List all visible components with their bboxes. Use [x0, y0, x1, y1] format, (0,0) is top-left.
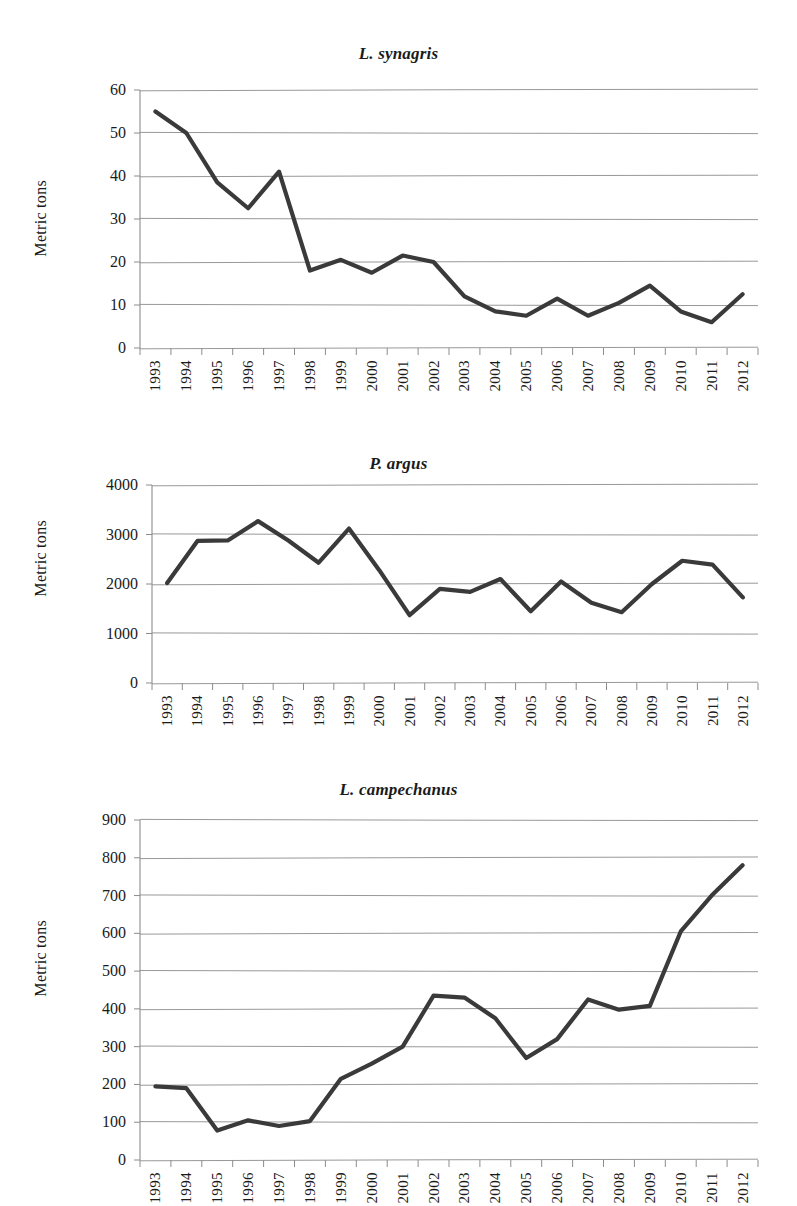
y-tick-label: 4000: [50, 477, 138, 493]
x-tick-label: 2006: [549, 360, 566, 392]
gridline: [140, 261, 758, 263]
x-tick-label: 2009: [642, 360, 659, 392]
x-tick-label: 2011: [705, 695, 722, 726]
x-tick-label: 2001: [395, 360, 412, 392]
gridline: [140, 1122, 758, 1123]
y-tick-label: 800: [30, 850, 126, 866]
x-tick-label: 2008: [614, 695, 631, 727]
y-tick-label: 1000: [50, 626, 138, 642]
x-tick-label: 2000: [371, 695, 388, 727]
gridline: [152, 484, 758, 486]
x-tick-label: 1993: [159, 695, 176, 727]
x-tick-label: 2000: [364, 1172, 381, 1204]
x-tick-label: 1999: [341, 695, 358, 727]
gridline: [140, 933, 758, 935]
figure-page: L. synagris Metric tons 0102030405060199…: [0, 0, 797, 1206]
y-tick-label: 200: [30, 1076, 126, 1092]
x-tick-label: 2002: [432, 695, 449, 727]
x-tick-label: 2005: [518, 1172, 535, 1204]
x-tick-label: 2009: [644, 695, 661, 727]
x-tick-label: 2008: [611, 360, 628, 392]
y-tick-label: 2000: [50, 576, 138, 592]
y-tick-label: 0: [50, 675, 138, 691]
data-series-line: [155, 865, 742, 1130]
x-tick-label: 2003: [456, 360, 473, 392]
x-tick-label: 1994: [189, 695, 206, 727]
y-tick-label: 600: [30, 925, 126, 941]
x-tick-label: 2007: [580, 360, 597, 392]
x-tick-label: 2003: [456, 1172, 473, 1204]
gridline: [140, 895, 758, 896]
x-tick-label: 1993: [147, 360, 164, 392]
gridline: [140, 89, 758, 91]
gridline: [152, 633, 758, 634]
x-tick-label: 1999: [333, 1172, 350, 1204]
y-tick-label: 40: [30, 168, 126, 184]
y-tick-label: 20: [30, 254, 126, 270]
x-tick-label: 2002: [426, 360, 443, 392]
gridline: [140, 175, 758, 177]
x-tick-label: 1998: [302, 1172, 319, 1204]
x-tick-label: 2004: [487, 360, 504, 392]
x-tick-label: 2011: [704, 1172, 721, 1203]
gridline: [140, 1008, 758, 1010]
chart-svg: [140, 820, 758, 1160]
x-tick-label: 1998: [311, 695, 328, 727]
gridline: [140, 132, 758, 133]
plot-area: [140, 90, 758, 348]
chart-panel-l-synagris: L. synagris Metric tons 0102030405060199…: [0, 0, 797, 440]
x-tick-label: 2000: [364, 360, 381, 392]
y-tick-label: 900: [30, 812, 126, 828]
y-tick-label: 0: [30, 1152, 126, 1168]
gridline: [140, 1084, 758, 1086]
x-tick-label: 2012: [735, 1172, 752, 1204]
y-tick-label: 700: [30, 888, 126, 904]
plot-area: [140, 820, 758, 1160]
gridline: [152, 534, 758, 535]
x-tick-label: 1998: [302, 360, 319, 392]
y-tick-label: 60: [30, 82, 126, 98]
data-series-line: [155, 112, 742, 323]
x-tick-label: 2012: [735, 695, 752, 727]
x-tick-label: 2009: [642, 1172, 659, 1204]
x-tick-label: 2011: [704, 360, 721, 391]
x-tick-label: 1995: [220, 695, 237, 727]
x-tick-label: 2003: [462, 695, 479, 727]
y-axis-label: Metric tons: [32, 520, 50, 597]
y-tick-label: 50: [30, 125, 126, 141]
x-tick-label: 1994: [178, 1172, 195, 1204]
x-tick-label: 2010: [674, 695, 691, 727]
x-tick-label: 1993: [147, 1172, 164, 1204]
chart-title: L. campechanus: [0, 780, 797, 800]
x-tick-label: 2006: [549, 1172, 566, 1204]
chart-title: P. argus: [0, 454, 797, 474]
gridline: [140, 1046, 758, 1047]
y-tick-label: 300: [30, 1039, 126, 1055]
x-tick-label: 2001: [402, 695, 419, 727]
y-tick-label: 100: [30, 1114, 126, 1130]
y-tick-label: 400: [30, 1001, 126, 1017]
x-tick-label: 1996: [240, 1172, 257, 1204]
y-tick-label: 3000: [50, 527, 138, 543]
chart-title: L. synagris: [0, 44, 797, 64]
gridline: [140, 819, 758, 820]
x-tick-label: 2007: [580, 1172, 597, 1204]
x-tick-label: 2012: [735, 360, 752, 392]
x-tick-label: 2007: [583, 695, 600, 727]
gridline: [140, 304, 758, 305]
x-tick-label: 2005: [523, 695, 540, 727]
x-tick-label: 2010: [673, 360, 690, 392]
x-tick-label: 1999: [333, 360, 350, 392]
x-tick-label: 2004: [487, 1172, 504, 1204]
x-tick-label: 1997: [280, 695, 297, 727]
x-tick-label: 2002: [426, 1172, 443, 1204]
chart-svg: [152, 485, 758, 683]
x-tick-label: 1997: [271, 360, 288, 392]
y-tick-label: 500: [30, 963, 126, 979]
x-tick-label: 1996: [250, 695, 267, 727]
x-tick-label: 2006: [553, 695, 570, 727]
plot-area: [152, 485, 758, 683]
x-tick-label: 1995: [209, 1172, 226, 1204]
x-tick-label: 1995: [209, 360, 226, 392]
x-tick-label: 2008: [611, 1172, 628, 1204]
